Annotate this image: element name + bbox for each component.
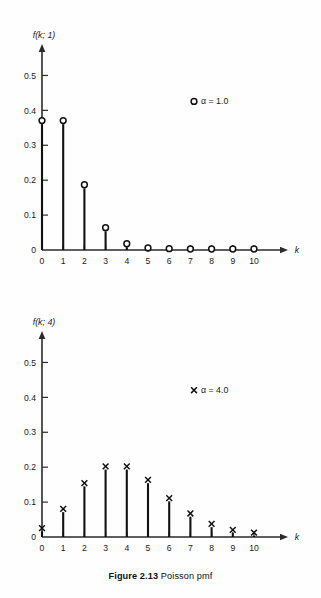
data-point [60,506,66,537]
chart-poisson-alpha-1: 00.10.20.30.40.5012345678910f(k; 1)kα = … [0,0,321,285]
data-point [230,527,236,537]
marker-open-circle-icon [60,118,66,124]
x-axis-arrow-icon [280,534,288,541]
y-tick-label: 0.4 [24,393,36,403]
data-point [124,241,130,250]
data-point [82,182,88,250]
x-tick-label: 10 [249,256,259,266]
data-point [145,245,151,252]
data-point [188,511,194,537]
data-point [82,480,88,537]
marker-open-circle-icon [188,246,194,252]
x-tick-label: 7 [188,256,193,266]
y-tick-label: 0.2 [24,462,36,472]
marker-open-circle-icon [145,245,151,251]
figure-caption-text: Poisson pmf [161,571,213,581]
marker-open-circle-icon [103,225,109,231]
data-point [145,477,151,537]
data-point [103,463,109,537]
x-tick-label: 0 [40,256,45,266]
y-tick-label: 0 [31,245,36,255]
data-point [188,246,194,252]
chart-poisson-alpha-4: 00.10.20.30.40.5012345678910f(k; 4)kα = … [0,292,321,562]
y-tick-label: 0.1 [24,210,36,220]
x-axis-arrow-icon [280,247,288,254]
y-axis-arrow-icon [39,44,46,52]
data-point [124,463,130,537]
data-point [251,530,257,537]
x-axis-ticks: 012345678910 [40,532,259,553]
x-tick-label: 2 [82,256,87,266]
y-tick-label: 0.2 [24,175,36,185]
data-point [230,246,236,252]
marker-open-circle-icon [166,246,172,252]
y-tick-label: 0.1 [24,497,36,507]
data-point [166,495,172,537]
x-tick-label: 5 [146,256,151,266]
x-tick-label: 6 [167,543,172,553]
x-tick-label: 8 [209,543,214,553]
x-tick-label: 7 [188,543,193,553]
x-tick-label: 8 [209,256,214,266]
marker-open-circle-icon [82,182,88,188]
x-tick-label: 9 [230,543,235,553]
chart-legend: α = 1.0 [191,96,228,106]
y-axis-ticks: 00.10.20.30.40.5 [24,358,48,543]
x-tick-label: 3 [103,543,108,553]
y-axis-label: f(k; 1) [33,30,56,40]
figure-caption-number: Figure 2.13 [109,571,159,581]
marker-open-circle-icon [39,118,45,124]
marker-open-circle-icon [230,246,236,252]
x-tick-label: 5 [146,543,151,553]
chart-axes [39,331,288,540]
y-tick-label: 0 [31,532,36,542]
y-tick-label: 0.3 [24,140,36,150]
legend-label: α = 4.0 [201,385,228,395]
data-point [103,225,109,250]
poisson-pmf-figure: 00.10.20.30.40.5012345678910f(k; 1)kα = … [0,0,321,598]
y-axis-ticks: 00.10.20.30.40.5 [24,71,48,256]
y-axis-label: f(k; 4) [33,317,56,327]
marker-open-circle-icon [124,241,130,247]
y-tick-label: 0.5 [24,358,36,368]
legend-marker-open-circle-icon [191,99,197,105]
y-axis-arrow-icon [39,331,46,339]
data-point [166,246,172,252]
x-tick-label: 1 [61,543,66,553]
marker-open-circle-icon [209,246,215,252]
data-point [39,118,45,250]
x-tick-label: 6 [167,256,172,266]
chart-series [39,118,257,252]
x-tick-label: 4 [124,543,129,553]
data-point [251,246,257,252]
y-tick-label: 0.5 [24,71,36,81]
x-tick-label: 10 [249,543,259,553]
x-axis-label: k [295,245,300,255]
chart-axes [39,44,288,253]
figure-caption: Figure 2.13 Poisson pmf [0,571,321,581]
x-tick-label: 0 [40,543,45,553]
y-tick-label: 0.3 [24,427,36,437]
chart-canvas-bottom: 00.10.20.30.40.5012345678910f(k; 4)kα = … [0,292,321,562]
x-tick-label: 9 [230,256,235,266]
marker-open-circle-icon [251,246,257,252]
x-axis-label: k [295,532,300,542]
x-tick-label: 1 [61,256,66,266]
x-tick-label: 4 [124,256,129,266]
x-tick-label: 3 [103,256,108,266]
data-point [209,521,215,537]
data-point [209,246,215,252]
x-tick-label: 2 [82,543,87,553]
chart-legend: α = 4.0 [191,385,228,395]
y-tick-label: 0.4 [24,106,36,116]
chart-series [39,463,257,537]
data-point [60,118,66,250]
chart-canvas-top: 00.10.20.30.40.5012345678910f(k; 1)kα = … [0,0,321,285]
legend-label: α = 1.0 [201,96,228,106]
